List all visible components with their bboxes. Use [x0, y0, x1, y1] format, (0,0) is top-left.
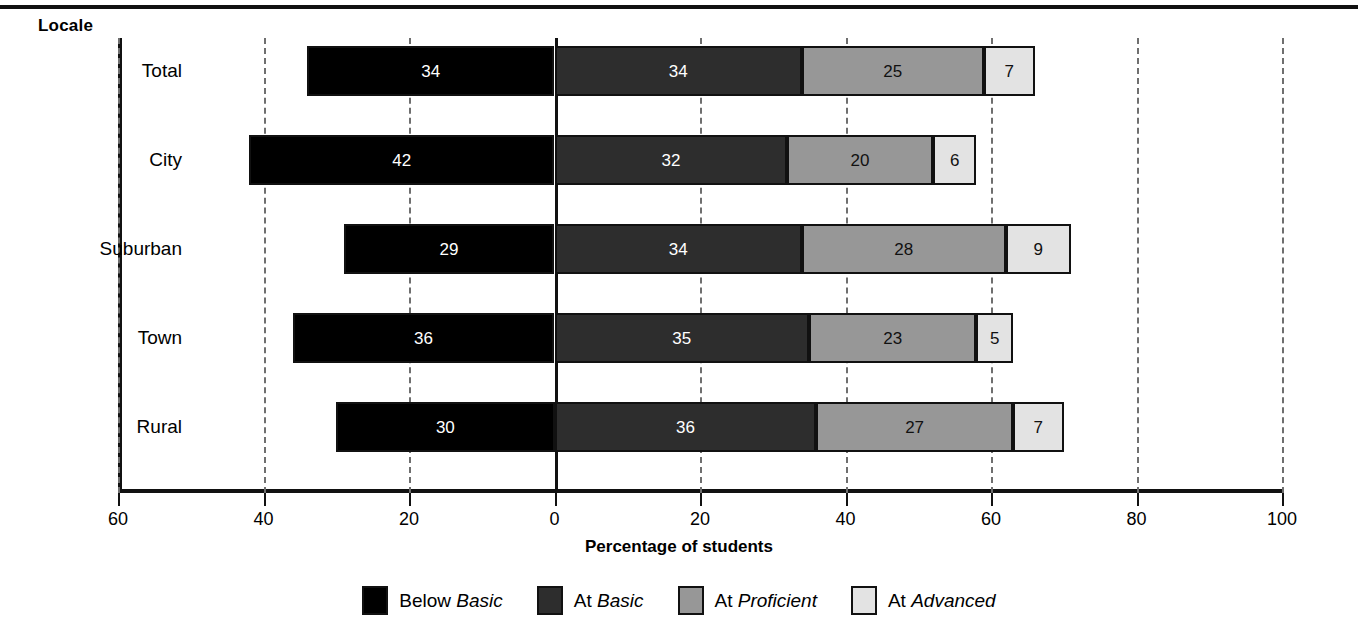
x-tick: [1282, 493, 1284, 506]
x-tick: [264, 493, 266, 506]
x-axis-title: Percentage of students: [0, 537, 1358, 557]
chart-page: Locale 343425742322062934289363523530362…: [0, 0, 1358, 640]
top-divider: [0, 5, 1358, 9]
x-tick-label: 20: [690, 509, 710, 530]
x-tick: [555, 493, 557, 506]
legend-item[interactable]: At Proficient: [678, 586, 817, 615]
category-label: Suburban: [100, 238, 182, 260]
legend-item[interactable]: Below Basic: [362, 586, 503, 615]
x-tick: [118, 493, 120, 506]
legend-swatch: [678, 586, 704, 615]
bar-row: 4232206: [118, 135, 1282, 185]
bar-row: 2934289: [118, 224, 1282, 274]
legend-label: At Proficient: [715, 590, 817, 612]
legend-swatch: [851, 586, 877, 615]
bar-segment: 9: [1006, 224, 1071, 274]
x-tick-label: 40: [253, 509, 273, 530]
x-tick: [409, 493, 411, 506]
bar-segment: 5: [976, 313, 1012, 363]
legend-item[interactable]: At Basic: [537, 586, 644, 615]
legend-item[interactable]: At Advanced: [851, 586, 996, 615]
bar-row: 3434257: [118, 46, 1282, 96]
x-tick: [846, 493, 848, 506]
category-label: Town: [138, 327, 182, 349]
bar-segment: 34: [555, 224, 802, 274]
legend-label: At Basic: [574, 590, 644, 612]
legend: Below BasicAt BasicAt ProficientAt Advan…: [0, 586, 1358, 615]
x-tick-label: 0: [549, 509, 559, 530]
bar-segment: 25: [802, 46, 984, 96]
bar-segment: 34: [307, 46, 554, 96]
legend-label: At Advanced: [888, 590, 996, 612]
bar-segment: 20: [787, 135, 933, 185]
x-tick-label: 20: [399, 509, 419, 530]
gridline: [1282, 38, 1284, 493]
category-label: City: [149, 149, 182, 171]
category-label: Total: [142, 60, 182, 82]
bar-segment: 28: [802, 224, 1006, 274]
bar-segment: 7: [984, 46, 1035, 96]
bar-segment: 42: [249, 135, 555, 185]
bar-segment: 27: [816, 402, 1012, 452]
bar-segment: 34: [555, 46, 802, 96]
x-tick: [991, 493, 993, 506]
bar-segment: 6: [933, 135, 977, 185]
legend-swatch: [537, 586, 563, 615]
bar-segment: 36: [555, 402, 817, 452]
x-tick-label: 60: [981, 509, 1001, 530]
x-tick: [700, 493, 702, 506]
x-tick-label: 100: [1267, 509, 1297, 530]
category-label: Rural: [137, 416, 182, 438]
bar-segment: 30: [336, 402, 554, 452]
x-tick-label: 80: [1126, 509, 1146, 530]
legend-label: Below Basic: [399, 590, 503, 612]
bar-segment: 7: [1013, 402, 1064, 452]
bar-segment: 35: [555, 313, 810, 363]
bar-segment: 32: [555, 135, 788, 185]
legend-swatch: [362, 586, 388, 615]
x-tick-label: 60: [108, 509, 128, 530]
bar-segment: 29: [344, 224, 555, 274]
bar-segment: 36: [293, 313, 555, 363]
x-tick-label: 40: [835, 509, 855, 530]
plot-area: 34342574232206293428936352353036277: [118, 38, 1282, 493]
x-tick: [1137, 493, 1139, 506]
bar-row: 3635235: [118, 313, 1282, 363]
bar-segment: 23: [809, 313, 976, 363]
group-header-locale: Locale: [38, 16, 93, 36]
bar-row: 3036277: [118, 402, 1282, 452]
